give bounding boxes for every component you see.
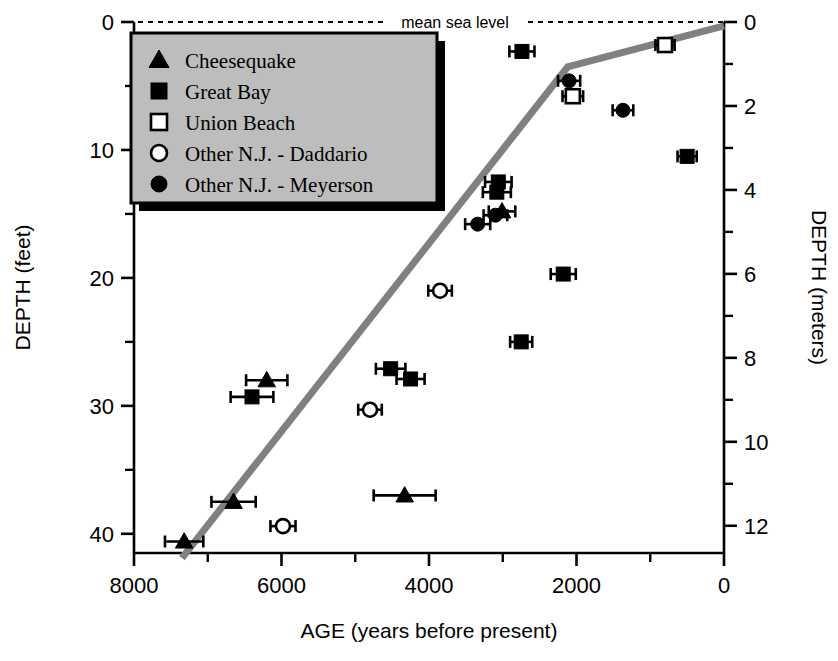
data-marker-square [514, 335, 528, 349]
data-marker-square [680, 149, 694, 163]
data-marker-circle [562, 74, 576, 88]
series-cheesequake [165, 203, 515, 548]
plot-canvas: mean sea level 0102030400246810128000600… [0, 0, 838, 661]
data-point [655, 38, 674, 52]
y-axis-title: DEPTH (feet) [11, 224, 34, 350]
legend-item-label: Other N.J. - Daddario [185, 142, 368, 166]
legend-item-label: Union Beach [185, 111, 296, 135]
legend-item-label: Cheesequake [185, 49, 296, 73]
data-marker-circle [616, 103, 630, 117]
data-point [231, 390, 274, 404]
mean-sea-level-group: mean sea level [138, 11, 724, 33]
x-axis-title: AGE (years before present) [301, 619, 558, 642]
data-point [509, 44, 534, 58]
legend-item-other-n-j-meyerson[interactable]: Other N.J. - Meyerson [151, 173, 374, 197]
x-tick-label: 2000 [552, 573, 601, 598]
data-marker-circle [471, 217, 485, 231]
x-tick-label: 8000 [110, 573, 159, 598]
data-marker-circle [433, 284, 447, 298]
legend-item-label: Other N.J. - Meyerson [185, 173, 374, 197]
mean-sea-level-label: mean sea level [401, 14, 509, 31]
sea-level-chart: mean sea level 0102030400246810128000600… [0, 0, 838, 661]
data-point [510, 335, 532, 349]
legend-item-label: Great Bay [185, 80, 271, 104]
y-right-tick-label: 0 [744, 10, 756, 35]
series-other-n-j-meyerson [465, 74, 633, 231]
data-point [465, 217, 490, 231]
y-right-tick-label: 6 [744, 262, 756, 287]
data-point [562, 89, 583, 103]
data-marker-circle [276, 519, 290, 533]
y-right-tick-label: 12 [744, 514, 768, 539]
data-marker-square [490, 185, 504, 199]
legend-marker-circle [151, 145, 167, 161]
y-tick-label: 20 [90, 266, 114, 291]
data-marker-square [556, 267, 570, 281]
data-marker-circle [363, 403, 377, 417]
y-right-tick-label: 2 [744, 94, 756, 119]
legend-marker-square [151, 83, 167, 99]
y-tick-label: 0 [102, 10, 114, 35]
series-union-beach [562, 38, 674, 103]
data-point [246, 372, 287, 387]
x-tick-label: 4000 [405, 573, 454, 598]
data-point [270, 519, 295, 533]
data-point [374, 487, 436, 502]
data-marker-square [245, 390, 259, 404]
data-point [678, 149, 697, 163]
legend-group: CheesequakeGreat BayUnion BeachOther N.J… [131, 33, 445, 211]
x-tick-label: 0 [718, 573, 730, 598]
data-marker-square [658, 38, 672, 52]
data-point [551, 267, 576, 281]
data-point [483, 185, 511, 199]
y-right-tick-label: 4 [744, 178, 756, 203]
y-right-axis-title: DEPTH (meters) [808, 210, 831, 365]
data-point [428, 284, 452, 298]
y-tick-label: 40 [90, 522, 114, 547]
y-right-tick-label: 8 [744, 346, 756, 371]
y-tick-label: 30 [90, 394, 114, 419]
data-marker-square [404, 372, 418, 386]
data-point [613, 103, 634, 117]
data-point [211, 493, 255, 508]
data-marker-square [515, 44, 529, 58]
y-tick-label: 10 [90, 138, 114, 163]
legend-marker-square [151, 114, 167, 130]
data-marker-square [566, 89, 580, 103]
data-point [358, 403, 382, 417]
data-point [397, 372, 425, 386]
data-point [376, 362, 406, 376]
x-tick-label: 6000 [257, 573, 306, 598]
y-right-tick-label: 10 [744, 430, 768, 455]
legend-marker-circle [151, 176, 167, 192]
